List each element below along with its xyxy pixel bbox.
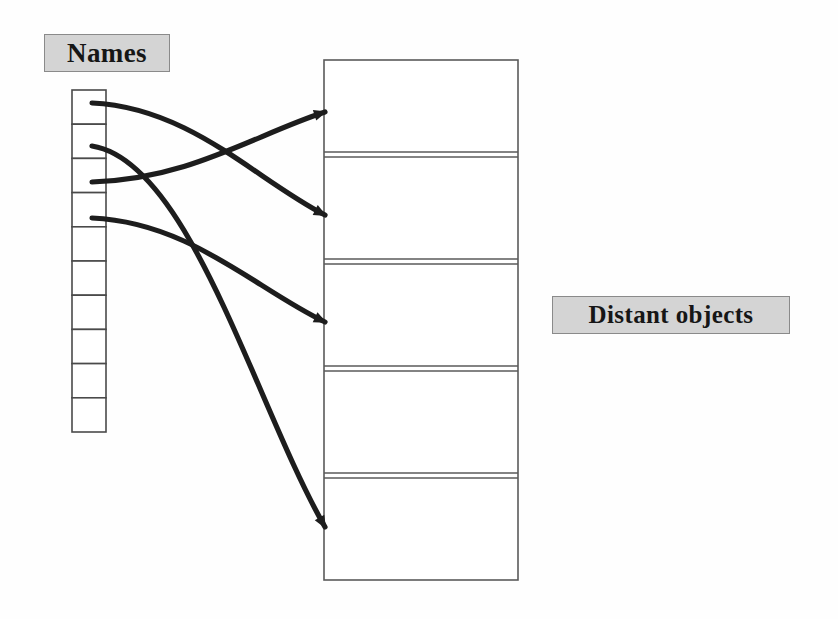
object-block[interactable] [325,263,517,368]
names-cell[interactable] [72,124,106,158]
names-cell[interactable] [72,398,106,432]
distant-objects-label: Distant objects [552,296,790,334]
names-cell[interactable] [72,295,106,329]
names-cell[interactable] [72,90,106,124]
object-block[interactable] [325,370,517,475]
names-label: Names [44,34,170,72]
diagram-canvas: Names Distant objects [0,0,838,619]
objects-column [324,60,518,580]
names-cell[interactable] [72,261,106,295]
link-curves [92,103,327,529]
link-curve [92,146,325,527]
names-cell[interactable] [72,227,106,261]
object-block[interactable] [325,61,517,154]
names-cell[interactable] [72,158,106,192]
object-block[interactable] [325,477,517,579]
names-column [72,90,106,432]
names-cell[interactable] [72,364,106,398]
link-curve [92,112,325,182]
names-cell[interactable] [72,329,106,363]
names-cell[interactable] [72,193,106,227]
object-block[interactable] [325,156,517,261]
